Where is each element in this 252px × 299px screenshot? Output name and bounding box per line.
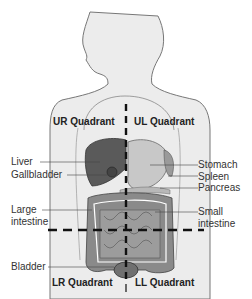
label-liver: Liver xyxy=(11,156,33,167)
quadrant-label-ur: UR Quadrant xyxy=(53,116,115,127)
label-gallbladder: Gallbladder xyxy=(11,169,62,180)
anatomy-illustration xyxy=(0,0,252,299)
quadrant-label-lr: LR Quadrant xyxy=(52,277,113,288)
label-large-intestine-line1: Large xyxy=(11,204,37,215)
quadrant-label-ul: UL Quadrant xyxy=(134,116,194,127)
quadrant-label-ll: LL Quadrant xyxy=(135,277,194,288)
label-large-intestine-line2: intestine xyxy=(11,216,48,227)
gallbladder xyxy=(107,167,117,177)
label-pancreas: Pancreas xyxy=(198,182,240,193)
label-bladder: Bladder xyxy=(11,261,45,272)
label-stomach: Stomach xyxy=(198,159,237,170)
label-spleen: Spleen xyxy=(198,171,229,182)
label-small-intestine-line1: Small xyxy=(198,206,223,217)
label-small-intestine-line2: intestine xyxy=(198,218,235,229)
